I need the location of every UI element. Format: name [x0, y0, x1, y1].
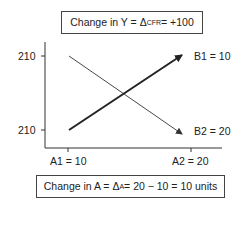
change-in-a-suffix: = 20 − 10 = 10 units — [124, 181, 217, 192]
x-tick-label-a2: A2 = 20 — [172, 156, 209, 167]
line-b1 — [69, 55, 182, 130]
y-tick-label-lower: 210 — [18, 125, 36, 136]
y-tick-label-upper: 210 — [18, 51, 36, 62]
line-label-b2: B2 = 20 — [194, 126, 231, 137]
line-label-b1: B1 = 10 — [194, 51, 231, 62]
change-in-a-prefix: Change in A = Δ — [44, 181, 120, 192]
line-b2 — [69, 56, 182, 134]
x-tick-label-a1: A1 = 10 — [50, 156, 87, 167]
change-in-a-box: Change in A = ΔA = 20 − 10 = 10 units — [36, 175, 225, 198]
